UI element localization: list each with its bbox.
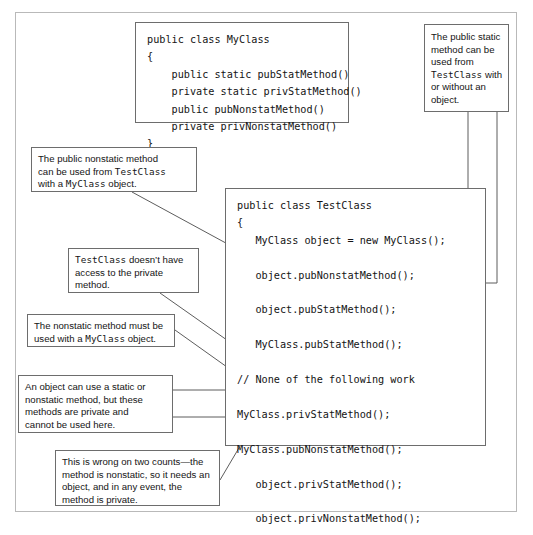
callout-line: The public static	[431, 31, 508, 44]
callout-line: The public nonstatic method	[38, 153, 196, 166]
callout-line: methods are private and	[25, 406, 172, 419]
callout-line-tail: object.	[106, 178, 137, 189]
callout-line: with a MyClass object.	[38, 178, 196, 191]
callout-line: cannot be used here.	[25, 419, 172, 432]
callout-line: used from	[431, 56, 508, 69]
public-nonstatic-callout: The public nonstatic method can be used …	[31, 147, 197, 192]
callout-line: TestClass with	[431, 69, 508, 82]
no-private-access-callout: TestClass doesn’t have access to the pri…	[68, 248, 199, 293]
callout-line: The nonstatic method must be	[34, 320, 174, 333]
callout-line: nonstatic method, but these	[25, 394, 172, 407]
nonstatic-needs-object-callout: The nonstatic method must be used with a…	[27, 314, 175, 347]
callout-line: method.	[75, 279, 198, 292]
testclass-code-block: public class TestClass { MyClass object …	[225, 188, 486, 446]
callout-line: object.	[431, 94, 508, 107]
callout-line-tail: with	[482, 69, 502, 80]
callout-line: TestClass doesn’t have	[75, 254, 198, 267]
myclass-code-block: public class MyClass { public static pub…	[135, 22, 349, 123]
callout-line: This is wrong on two counts—the	[62, 456, 219, 469]
code-term-testclass: TestClass	[431, 69, 482, 80]
code-term-testclass: TestClass	[75, 254, 126, 265]
code-term-testclass: TestClass	[115, 166, 166, 177]
callout-line: or without an	[431, 81, 508, 94]
callout-line-head: can be used from	[38, 166, 115, 177]
callout-line: used with a MyClass object.	[34, 333, 174, 346]
code-term-myclass: MyClass	[85, 333, 125, 344]
callout-line: can be used from TestClass	[38, 166, 196, 179]
private-methods-callout: An object can use a static or nonstatic …	[18, 375, 173, 433]
callout-line-tail: doesn’t have	[126, 254, 183, 265]
callout-line-tail: object.	[125, 333, 156, 344]
callout-line-head: with a	[38, 178, 66, 189]
callout-line: access to the private	[75, 267, 198, 280]
callout-line: method can be	[431, 44, 508, 57]
code-term-myclass: MyClass	[66, 178, 106, 189]
callout-line: method is nonstatic, so it needs an	[62, 469, 219, 482]
wrong-on-two-counts-callout: This is wrong on two counts—the method i…	[55, 450, 220, 506]
figure-canvas: public class MyClass { public static pub…	[0, 0, 533, 535]
callout-line: object, and in any event, the	[62, 481, 219, 494]
public-static-callout: The public static method can be used fro…	[424, 24, 509, 112]
callout-line-head: used with a	[34, 333, 85, 344]
callout-line: method is private.	[62, 494, 219, 507]
callout-line: An object can use a static or	[25, 381, 172, 394]
